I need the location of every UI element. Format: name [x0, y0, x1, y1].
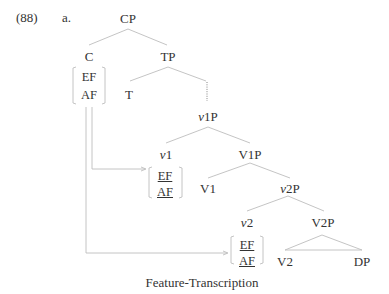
node-DP: DP [354, 255, 371, 268]
node-v2p: v2P [280, 182, 300, 195]
example-letter: a. [62, 11, 71, 24]
node-v1p: v1P [198, 110, 218, 123]
node-v2: v2 [241, 216, 253, 229]
node-tp: TP [160, 50, 175, 63]
node-V1: V1 [200, 182, 216, 195]
tree-branches [0, 0, 389, 294]
c-feature-af: AF [81, 89, 97, 102]
node-cp: CP [120, 12, 136, 25]
node-v1: v1 [160, 148, 172, 161]
v2-feature-ef: EF [240, 239, 255, 252]
v2-feature-af: AF [239, 255, 255, 268]
figure-caption: Feature-Transcription [146, 276, 259, 289]
node-V2: V2 [277, 255, 293, 268]
v1-feature-ef: EF [158, 170, 173, 183]
v1-feature-af: AF [157, 186, 173, 199]
node-V1P: V1P [238, 148, 261, 161]
node-V2P: V2P [311, 216, 334, 229]
node-c: C [85, 50, 94, 63]
example-number: (88) [16, 11, 38, 24]
c-feature-ef: EF [82, 71, 97, 84]
node-t: T [125, 88, 133, 101]
